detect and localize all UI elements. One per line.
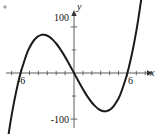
y-axis-tick-label-min: -100 — [41, 115, 69, 125]
x-axis-label: x — [150, 68, 154, 78]
axes-group — [6, 10, 153, 128]
cubic-function-graph: 100 -100 -6 6 y x — [0, 0, 159, 134]
y-axis-arrow-icon — [71, 10, 76, 16]
x-axis-tick-label-positive: 6 — [128, 76, 133, 86]
plot-area — [0, 0, 159, 134]
stray-mark-icon — [3, 5, 7, 9]
cubic-curve — [6, 0, 144, 134]
y-axis-label: y — [77, 2, 81, 12]
x-axis-tick-label-negative: -6 — [17, 76, 25, 86]
y-axis-tick-label-max: 100 — [41, 13, 69, 23]
